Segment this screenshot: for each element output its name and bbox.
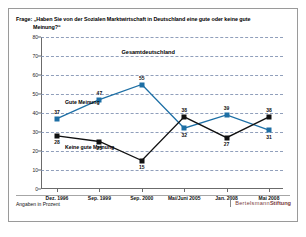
data-point-label: 38 xyxy=(181,107,187,113)
chart-figure: Frage: „Haben Sie von der Sozialen Markt… xyxy=(8,8,298,222)
y-tick-label: 60 xyxy=(32,72,38,78)
brand-part-two: Stiftung xyxy=(270,200,291,206)
question-text: „Haben Sie von der Sozialen Marktwirtsch… xyxy=(34,16,223,22)
x-tick-mark xyxy=(99,189,100,192)
footer-divider xyxy=(16,195,290,196)
region-label: Gesamtdeutschland xyxy=(121,49,174,55)
data-point-label: 37 xyxy=(54,109,60,115)
data-point-marker xyxy=(139,158,144,163)
y-tick-label: 30 xyxy=(32,129,38,135)
data-point-label: 28 xyxy=(54,139,60,145)
x-tick-mark xyxy=(227,189,228,192)
plot-area: 01020304050607080 Dez. 1996Sep. 1999Sep.… xyxy=(41,37,283,189)
question-text-tail: keine gute xyxy=(224,16,250,22)
data-point-label: 55 xyxy=(139,75,145,81)
x-tick-mark xyxy=(142,189,143,192)
data-point-marker xyxy=(224,112,229,117)
data-point-marker xyxy=(267,114,272,119)
series-label-gute-meinung: Gute Meinung xyxy=(65,99,100,105)
y-tick-label: 10 xyxy=(32,167,38,173)
footer-note: Angaben in Prozent xyxy=(16,201,60,207)
bertelsmann-stiftung-logo: BertelsmannStiftung xyxy=(230,199,291,207)
y-tick-label: 20 xyxy=(32,148,38,154)
y-tick-label: 0 xyxy=(35,186,38,192)
question-heading: Frage: „Haben Sie von der Sozialen Markt… xyxy=(16,15,288,31)
x-tick-mark xyxy=(184,189,185,192)
series-line xyxy=(57,85,269,131)
data-point-label: 15 xyxy=(139,164,145,170)
data-point-marker xyxy=(224,135,229,140)
series-lines xyxy=(41,37,283,189)
y-tick-label: 50 xyxy=(32,91,38,97)
data-point-marker xyxy=(55,133,60,138)
data-point-marker xyxy=(182,126,187,131)
data-point-marker xyxy=(267,128,272,133)
data-point-label: 32 xyxy=(181,132,187,138)
data-point-marker xyxy=(182,114,187,119)
series-line xyxy=(57,117,269,161)
y-tick-label: 80 xyxy=(32,34,38,40)
question-label: Frage: xyxy=(16,16,32,22)
x-tick-mark xyxy=(269,189,270,192)
data-point-label: 27 xyxy=(224,141,230,147)
x-tick-mark xyxy=(57,189,58,192)
data-point-marker xyxy=(55,116,60,121)
y-tick-label: 70 xyxy=(32,53,38,59)
data-point-label: 39 xyxy=(224,105,230,111)
series-label-keine-gute-meinung: Keine gute Meinung xyxy=(65,144,114,150)
data-point-label: 47 xyxy=(97,90,103,96)
question-text-line2: Meinung?“ xyxy=(33,23,288,31)
y-tick-label: 40 xyxy=(32,110,38,116)
data-point-label: 31 xyxy=(266,134,272,140)
brand-part-one: Bertelsmann xyxy=(235,200,270,206)
data-point-label: 38 xyxy=(266,107,272,113)
data-point-marker xyxy=(139,82,144,87)
